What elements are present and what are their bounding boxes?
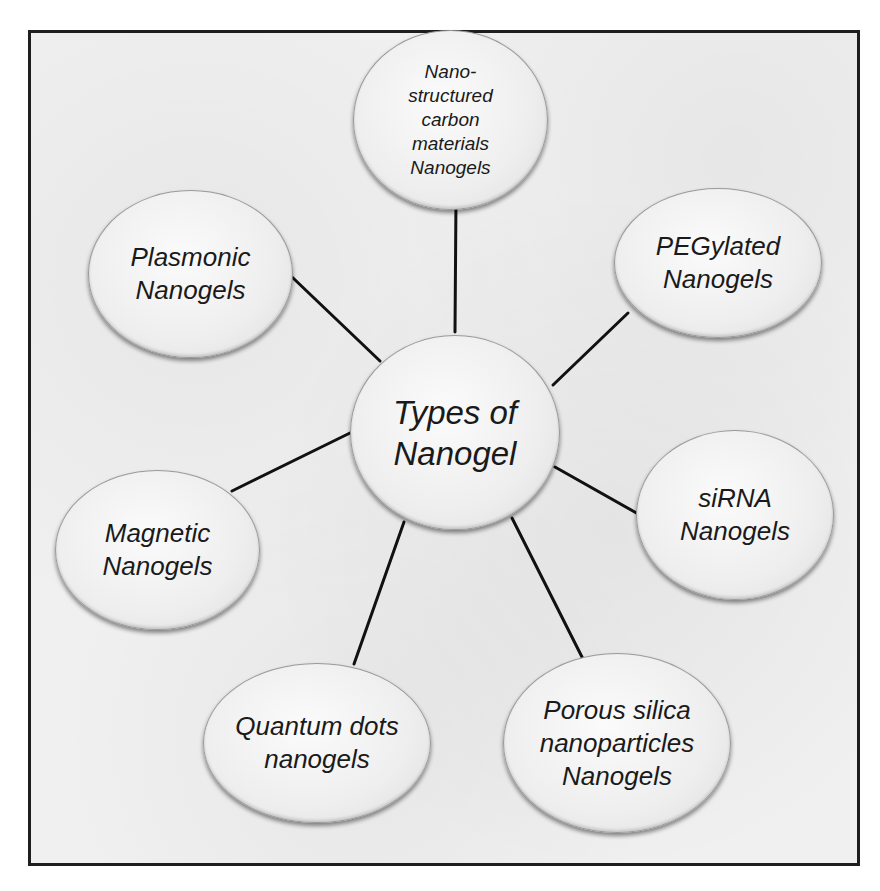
node-label: Nano- structured carbon materials Nanoge… [408,60,492,180]
center-node-types-of-nanogel: Types of Nanogel [350,335,560,530]
connector-sirna [555,467,640,515]
node-quantum-dots: Quantum dots nanogels [203,663,431,823]
connector-carbon [455,198,456,332]
node-porous-silica: Porous silica nanoparticles Nanogels [503,653,731,833]
connector-quantum [354,522,404,664]
node-label: Plasmonic Nanogels [131,241,251,307]
node-label: siRNA Nanogels [680,482,790,548]
center-node-label: Types of Nanogel [393,392,517,474]
node-nanostructured-carbon: Nano- structured carbon materials Nanoge… [353,30,548,210]
connector-silica [512,518,584,661]
connector-magnetic [232,433,350,491]
node-sirna: siRNA Nanogels [636,430,834,600]
node-pegylated: PEGylated Nanogels [614,188,822,338]
node-plasmonic: Plasmonic Nanogels [88,190,293,358]
connector-plasmonic [292,277,380,361]
node-label: Porous silica nanoparticles Nanogels [540,694,695,793]
node-label: Quantum dots nanogels [235,710,398,776]
connector-pegylated [553,313,628,385]
node-label: Magnetic Nanogels [103,517,213,583]
node-label: PEGylated Nanogels [656,230,780,296]
node-magnetic: Magnetic Nanogels [55,470,260,630]
